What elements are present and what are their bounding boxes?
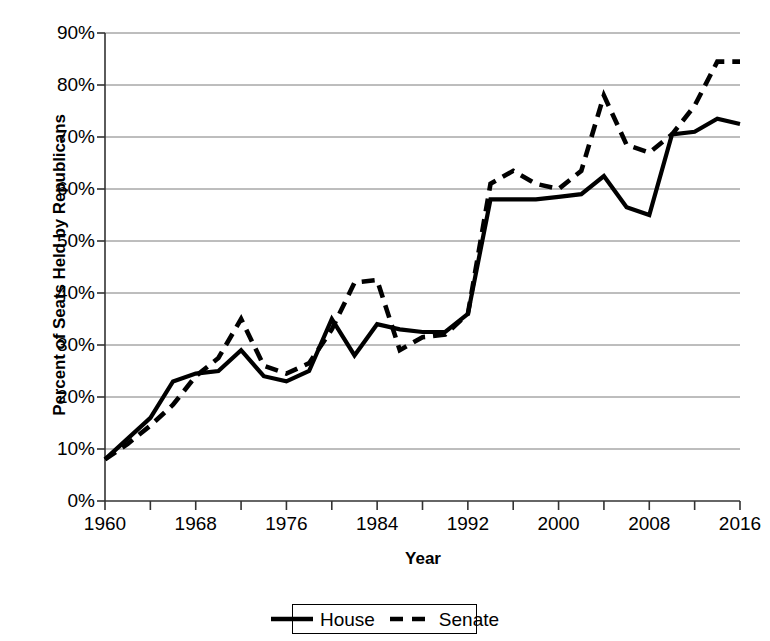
y-axis-tick-label: 80% xyxy=(25,75,95,94)
x-axis-title: Year xyxy=(105,549,741,569)
x-axis-tick-label: 1960 xyxy=(60,514,150,533)
legend-item-senate: Senate xyxy=(389,610,499,629)
axis-tick-marks xyxy=(97,33,740,510)
data-series xyxy=(105,62,740,460)
x-axis-tick-label: 1968 xyxy=(151,514,241,533)
x-axis-tick-label: 1984 xyxy=(332,514,422,533)
x-axis-tick-label: 1976 xyxy=(241,514,331,533)
y-axis-tick-label: 40% xyxy=(25,283,95,302)
y-axis-tick-label: 70% xyxy=(25,127,95,146)
y-axis-tick-label: 10% xyxy=(25,439,95,458)
axis-lines xyxy=(105,33,740,501)
series-line-senate xyxy=(105,62,740,460)
plot-area xyxy=(0,0,770,641)
y-axis-title: Percent of Seats Held by Republicans xyxy=(50,55,70,475)
x-axis-tick-label: 2016 xyxy=(695,514,770,533)
chart-legend: HouseSenate xyxy=(292,604,477,634)
y-axis-tick-label: 90% xyxy=(25,23,95,42)
legend-item-house: House xyxy=(270,610,375,629)
y-axis-tick-label: 50% xyxy=(25,231,95,250)
gridlines xyxy=(105,33,740,449)
y-axis-tick-label: 30% xyxy=(25,335,95,354)
y-axis-tick-label: 20% xyxy=(25,387,95,406)
x-axis-tick-label: 1992 xyxy=(423,514,513,533)
legend-swatch-dashed-line-icon xyxy=(389,614,433,624)
legend-label: Senate xyxy=(439,610,499,629)
legend-swatch-solid-line-icon xyxy=(270,614,314,624)
y-axis-tick-label: 0% xyxy=(25,491,95,510)
y-axis-tick-label: 60% xyxy=(25,179,95,198)
legend-label: House xyxy=(320,610,375,629)
line-chart: Percent of Seats Held by Republicans 0%1… xyxy=(0,0,770,641)
x-axis-tick-label: 2008 xyxy=(604,514,694,533)
series-line-house xyxy=(105,119,740,460)
x-axis-tick-label: 2000 xyxy=(514,514,604,533)
